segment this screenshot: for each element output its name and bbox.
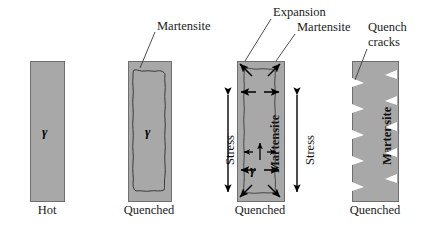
caption-quenched-3: Quenched [225, 203, 295, 218]
stage-hot-gamma-symbol: γ [42, 124, 47, 140]
caption-quenched-2: Quenched [114, 203, 184, 218]
leader-line-expansion [245, 19, 271, 61]
callout-martensite: Martensite [157, 20, 210, 33]
stress-label-right: Stress [303, 135, 318, 165]
callout-quench-cracks-line1: Quench [368, 21, 407, 34]
caption-hot: Hot [16, 203, 78, 218]
callout-expansion-martensite: Martensite [297, 21, 350, 34]
callout-expansion: Expansion [273, 6, 326, 19]
stage-quenched-stress-gamma-symbol: γ [250, 162, 255, 178]
caption-quenched-4: Quenched [340, 203, 410, 218]
stage-quenched-shell-gamma-symbol: γ [145, 124, 150, 140]
stress-label-left: Stress [223, 135, 238, 165]
leader-line-expansion-martensite [276, 34, 295, 61]
stage-quenched-stress-interior-label: Martensite [268, 115, 283, 173]
stage-quenched-cracks-interior-label: Martensite [380, 107, 395, 165]
callout-quench-cracks-line2: cracks [368, 36, 400, 49]
stage-hot-specimen [30, 61, 65, 202]
